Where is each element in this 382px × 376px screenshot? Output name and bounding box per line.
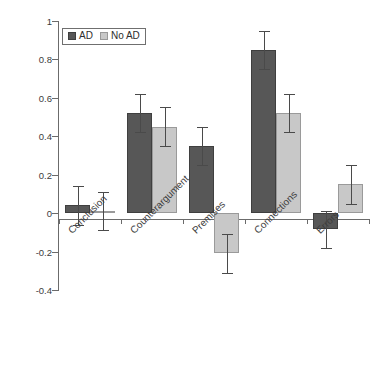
y-axis-tick <box>52 290 59 291</box>
error-bar-cap-upper <box>135 94 146 95</box>
error-bar-cap-upper <box>73 186 84 187</box>
error-bar-cap-lower <box>259 69 270 70</box>
error-bar-cap-upper <box>160 107 171 108</box>
bar-chart: 10.80.60.40.20-0.2-0.4 ConclusionCounter… <box>0 0 382 376</box>
error-bar-cap-lower <box>346 204 357 205</box>
error-bar-cap-lower <box>197 165 208 166</box>
y-axis-tick <box>52 252 59 253</box>
y-axis-tick <box>52 213 59 214</box>
legend-swatch-no-ad-icon <box>100 32 108 40</box>
y-axis-tick <box>52 21 59 22</box>
error-bar-line <box>289 94 290 132</box>
legend-item-ad: AD <box>68 31 93 41</box>
y-axis-tick <box>52 136 59 137</box>
legend-item-no-ad: No AD <box>100 31 140 41</box>
legend-swatch-ad-icon <box>68 32 76 40</box>
error-bar-line <box>165 107 166 145</box>
y-axis-tick <box>52 175 59 176</box>
y-axis-tick <box>52 59 59 60</box>
y-axis-tick-label: 0 <box>6 208 52 219</box>
y-axis-tick-label: 0.8 <box>6 54 52 65</box>
legend-label-ad: AD <box>79 31 93 41</box>
y-axis-tick <box>52 98 59 99</box>
chart-legend: AD No AD <box>62 28 146 45</box>
y-axis-tick-label: 0.2 <box>6 169 52 180</box>
plot-area <box>59 21 369 290</box>
error-bar-cap-upper <box>197 127 208 128</box>
error-bar-line <box>351 165 352 203</box>
error-bar-cap-lower <box>284 132 295 133</box>
error-bar-cap-upper <box>259 31 270 32</box>
error-bar-cap-upper <box>346 165 357 166</box>
error-bar-cap-lower <box>321 248 332 249</box>
x-axis-tick <box>369 219 370 224</box>
y-axis-tick-label: 0.6 <box>6 92 52 103</box>
error-bar-cap-lower <box>98 230 109 231</box>
error-bar-line <box>140 94 141 132</box>
error-bar-cap-upper <box>284 94 295 95</box>
y-axis-tick-label: -0.2 <box>6 246 52 257</box>
error-bar-cap-lower <box>160 146 171 147</box>
error-bar-line <box>264 31 265 69</box>
error-bar-cap-lower <box>135 132 146 133</box>
error-bar-cap-lower <box>222 273 233 274</box>
y-axis-tick-label: 1 <box>6 16 52 27</box>
error-bar-line <box>227 234 228 272</box>
y-axis-tick-label: 0.4 <box>6 131 52 142</box>
error-bar-cap-upper <box>222 234 233 235</box>
legend-label-no-ad: No AD <box>111 31 140 41</box>
bar-connections-ad <box>251 50 276 213</box>
y-axis-tick-label: -0.4 <box>6 285 52 296</box>
error-bar-line <box>202 127 203 165</box>
